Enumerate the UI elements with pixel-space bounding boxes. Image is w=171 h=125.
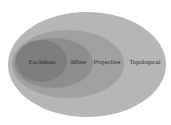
label-affine: Affine	[70, 59, 86, 65]
label-euclidean: Euclidean	[29, 59, 56, 65]
label-topological: Topological	[130, 59, 161, 65]
label-projective: Projective	[93, 59, 120, 65]
